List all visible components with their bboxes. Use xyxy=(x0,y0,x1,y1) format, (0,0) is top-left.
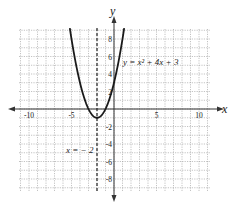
y-tick-label: -4 xyxy=(106,140,112,149)
y-tick-label: -6 xyxy=(106,158,112,167)
equation-label: y = x² + 4x + 3 xyxy=(122,57,179,67)
y-axis-label: y xyxy=(109,4,116,18)
x-tick-label: -5 xyxy=(68,111,74,120)
y-tick-label: -2 xyxy=(106,123,112,132)
axes xyxy=(8,16,224,202)
x-tick-label: 5 xyxy=(155,111,159,120)
x-axis-label: x xyxy=(221,102,228,116)
x-tick-label: 10 xyxy=(195,111,203,120)
y-tick-label: 4 xyxy=(108,70,112,79)
symmetry-label: x = − 2 xyxy=(65,145,94,155)
y-tick-label: 6 xyxy=(108,53,112,62)
y-tick-label: -8 xyxy=(106,175,112,184)
parabola-graph: -10-55108642-2-4-6-8 y = x² + 4x + 3 x =… xyxy=(0,0,233,208)
y-tick-label: 8 xyxy=(108,35,112,44)
x-tick-label: -10 xyxy=(24,111,34,120)
